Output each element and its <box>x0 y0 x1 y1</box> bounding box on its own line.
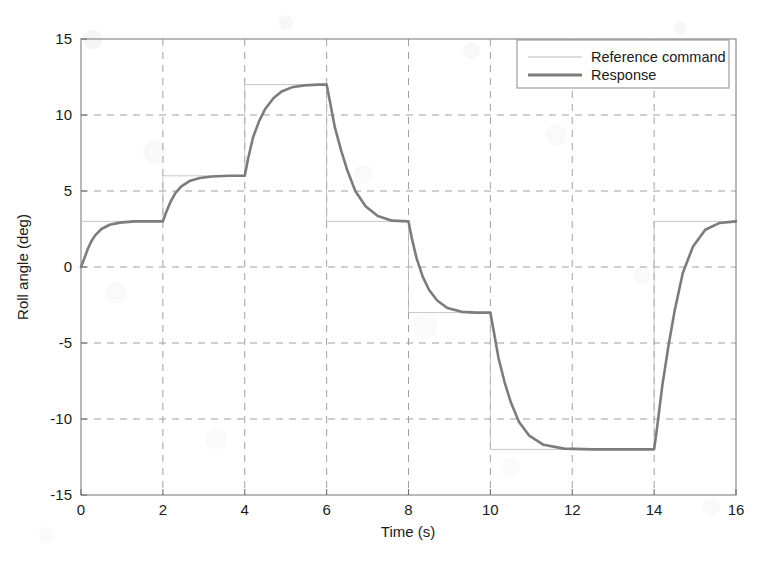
x-tick-label: 4 <box>241 501 249 518</box>
x-axis-tick-labels: 0246810121416 <box>77 501 745 518</box>
y-tick-label: 15 <box>55 30 72 47</box>
chart-legend: Reference command Response <box>517 40 729 88</box>
legend-label-reference-command: Reference command <box>591 49 726 65</box>
x-tick-label: 14 <box>646 501 663 518</box>
y-tick-label: -10 <box>50 410 72 427</box>
legend-label-response: Response <box>591 67 656 83</box>
x-tick-label: 12 <box>564 501 581 518</box>
figure-canvas: 0246810121416 -15-10-5051015 Time (s) Ro… <box>0 0 773 563</box>
x-tick-label: 0 <box>77 501 85 518</box>
y-tick-label: -15 <box>50 486 72 503</box>
x-tick-label: 6 <box>322 501 330 518</box>
y-tick-label: -5 <box>59 334 72 351</box>
x-axis-tick-marks <box>81 489 736 495</box>
y-tick-label: 10 <box>55 106 72 123</box>
roll-angle-step-response-chart: 0246810121416 -15-10-5051015 Time (s) Ro… <box>0 0 773 563</box>
y-tick-label: 0 <box>64 258 72 275</box>
y-axis-tick-labels: -15-10-5051015 <box>50 30 72 503</box>
x-tick-label: 8 <box>404 501 412 518</box>
x-tick-label: 16 <box>728 501 745 518</box>
x-axis-title: Time (s) <box>381 523 435 540</box>
y-axis-title: Roll angle (deg) <box>14 214 31 320</box>
x-tick-label: 2 <box>159 501 167 518</box>
y-tick-label: 5 <box>64 182 72 199</box>
x-tick-label: 10 <box>482 501 499 518</box>
